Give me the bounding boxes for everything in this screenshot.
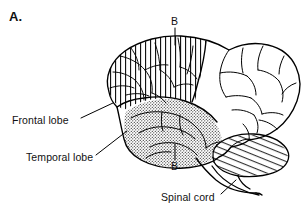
leader-frontal-lobe	[81, 103, 113, 118]
temporal-lobe-label: Temporal lobe	[26, 152, 93, 163]
figure-panel-a: A. Frontal lobe Temporal lobe Spinal cor…	[0, 0, 307, 218]
panel-letter-label: A.	[9, 10, 22, 23]
section-plane-b-top-label: B	[171, 16, 178, 27]
frontal-lobe-label: Frontal lobe	[12, 115, 69, 126]
spinal-cord-label: Spinal cord	[161, 192, 215, 203]
brain-lateral-view-illustration	[0, 0, 307, 218]
section-plane-b-bottom-label: B	[171, 161, 178, 172]
leader-temporal-lobe	[96, 131, 127, 155]
